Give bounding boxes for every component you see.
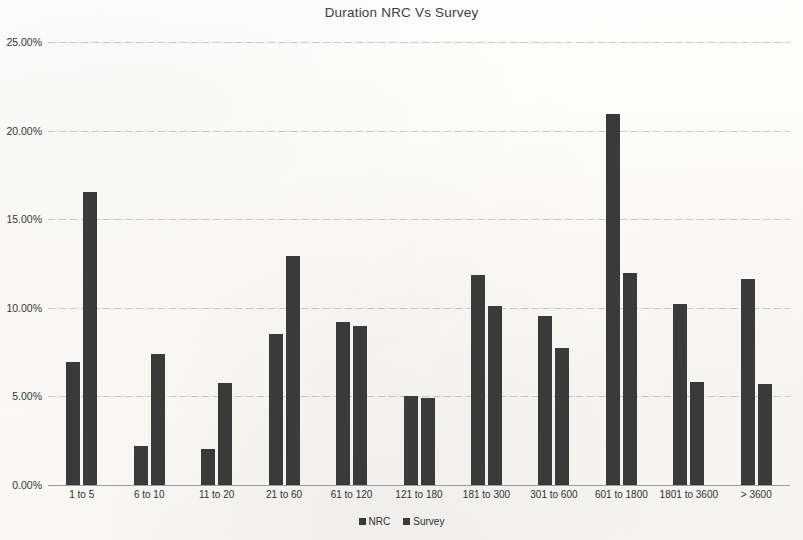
x-axis-tick-label: > 3600 (741, 489, 772, 500)
bar-group (66, 42, 97, 485)
bar-survey (151, 354, 165, 485)
bar-survey (286, 256, 300, 485)
x-axis-tick-label: 61 to 120 (331, 489, 373, 500)
bar-chart: Duration NRC Vs Survey 0.00%5.00%10.00%1… (0, 0, 803, 540)
x-axis-tick-label: 181 to 300 (463, 489, 510, 500)
bar-nrc (201, 449, 215, 485)
bar-nrc (404, 396, 418, 485)
bar-nrc (269, 334, 283, 485)
legend-label: NRC (369, 516, 391, 527)
legend-swatch-icon (403, 518, 410, 525)
bar-group (134, 42, 165, 485)
bar-survey (555, 348, 569, 485)
legend-entry: Survey (403, 516, 444, 527)
bar-nrc (336, 322, 350, 485)
x-axis-tick-label: 121 to 180 (395, 489, 442, 500)
legend-swatch-icon (359, 518, 366, 525)
bars-layer (48, 42, 790, 485)
bar-nrc (66, 362, 80, 485)
legend-label: Survey (413, 516, 444, 527)
bar-group (538, 42, 569, 485)
x-axis: 1 to 56 to 1011 to 2021 to 6061 to 12012… (48, 489, 790, 509)
bar-group (471, 42, 502, 485)
x-axis-tick-label: 1 to 5 (69, 489, 94, 500)
plot-area (48, 42, 790, 485)
bar-survey (758, 384, 772, 485)
bar-nrc (673, 304, 687, 485)
bar-nrc (471, 275, 485, 485)
x-axis-tick-label: 21 to 60 (266, 489, 302, 500)
bar-survey (623, 273, 637, 485)
x-axis-tick-label: 1801 to 3600 (660, 489, 718, 500)
chart-legend: NRCSurvey (0, 516, 803, 527)
bar-group (336, 42, 367, 485)
x-axis-tick-label: 6 to 10 (134, 489, 165, 500)
y-axis-tick-label: 25.00% (6, 36, 42, 48)
chart-title: Duration NRC Vs Survey (0, 5, 803, 20)
gridline (48, 485, 790, 486)
bar-group (741, 42, 772, 485)
bar-group (404, 42, 435, 485)
y-axis: 0.00%5.00%10.00%15.00%20.00%25.00% (0, 42, 48, 485)
bar-survey (690, 382, 704, 485)
y-axis-tick-label: 0.00% (12, 479, 42, 491)
bar-survey (83, 192, 97, 485)
bar-group (269, 42, 300, 485)
bar-group (201, 42, 232, 485)
bar-survey (421, 398, 435, 485)
bar-nrc (134, 446, 148, 485)
x-axis-tick-label: 601 to 1800 (595, 489, 648, 500)
bar-group (606, 42, 637, 485)
y-axis-tick-label: 15.00% (6, 213, 42, 225)
bar-nrc (741, 279, 755, 485)
legend-entry: NRC (359, 516, 391, 527)
bar-survey (488, 306, 502, 485)
y-axis-tick-label: 20.00% (6, 125, 42, 137)
bar-survey (353, 326, 367, 485)
bar-survey (218, 383, 232, 485)
y-axis-tick-label: 10.00% (6, 302, 42, 314)
y-axis-tick-label: 5.00% (12, 390, 42, 402)
bar-group (673, 42, 704, 485)
x-axis-tick-label: 301 to 600 (530, 489, 577, 500)
bar-nrc (606, 114, 620, 485)
bar-nrc (538, 316, 552, 485)
x-axis-tick-label: 11 to 20 (199, 489, 234, 500)
